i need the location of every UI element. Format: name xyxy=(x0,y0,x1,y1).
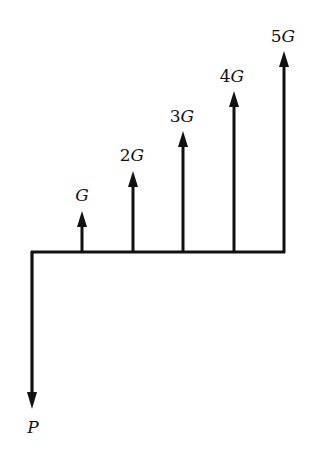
cash-flow-arrow-1 xyxy=(77,211,87,253)
cash-flow-arrow-2 xyxy=(128,171,138,253)
arrowhead-up-icon xyxy=(77,211,87,227)
present-value-label: P xyxy=(26,417,39,437)
cash-flow-label-5: 5G xyxy=(271,26,295,46)
cash-flow-arrow-5 xyxy=(279,51,289,253)
arrowhead-up-icon xyxy=(128,171,138,187)
present-value-arrow xyxy=(27,251,37,409)
cash-flow-arrow-3 xyxy=(178,131,188,253)
cash-flow-arrow-4 xyxy=(229,91,239,253)
arrowhead-down-icon xyxy=(27,392,37,409)
cash-flow-diagram: P G 2G 3G 4G 5G xyxy=(0,0,312,461)
arrowhead-up-icon xyxy=(178,131,188,147)
arrowhead-up-icon xyxy=(229,91,239,107)
cash-flow-label-4: 4G xyxy=(220,66,244,86)
cash-flow-label-1: G xyxy=(75,185,89,205)
arrowhead-up-icon xyxy=(279,51,289,67)
cash-flow-label-2: 2G xyxy=(120,145,144,165)
cash-flow-label-3: 3G xyxy=(170,106,194,126)
